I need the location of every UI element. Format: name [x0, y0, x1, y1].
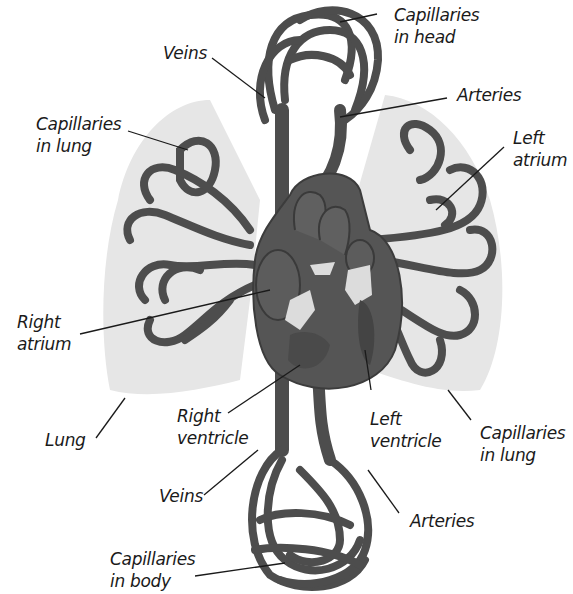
label-left-atrium: Left atrium — [513, 127, 567, 171]
label-veins-bottom: Veins — [159, 485, 203, 507]
label-right-atrium: Right atrium — [17, 311, 71, 355]
label-lung: Lung — [45, 429, 86, 451]
label-capillaries-in-lung-left: Capillaries in lung — [36, 113, 121, 157]
label-arteries-top: Arteries — [457, 84, 521, 106]
label-arteries-bottom: Arteries — [410, 510, 474, 532]
label-capillaries-in-lung-right: Capillaries in lung — [480, 422, 565, 466]
label-capillaries-in-body: Capillaries in body — [110, 548, 195, 592]
label-left-ventricle: Left ventricle — [370, 408, 442, 452]
label-veins-top: Veins — [163, 42, 207, 64]
label-capillaries-in-head: Capillaries in head — [394, 4, 479, 48]
circulatory-diagram: Capillaries in head Veins Arteries Capil… — [0, 0, 573, 594]
label-right-ventricle: Right ventricle — [177, 405, 249, 449]
